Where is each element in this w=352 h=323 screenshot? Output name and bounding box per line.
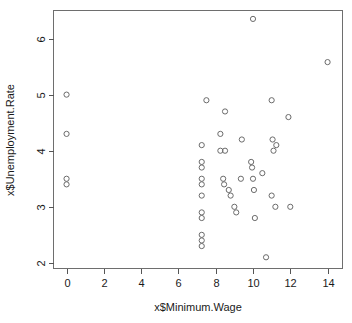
- data-points-layer: [64, 16, 330, 260]
- data-point: [228, 193, 233, 198]
- data-point: [250, 176, 255, 181]
- x-tick-label: 12: [284, 277, 296, 289]
- x-tick-label: 6: [175, 277, 181, 289]
- x-tick-label: 4: [138, 277, 144, 289]
- y-axis-title: x$Unemployment.Rate: [4, 84, 16, 196]
- data-point: [221, 176, 226, 181]
- data-point: [199, 243, 204, 248]
- data-point: [222, 182, 227, 187]
- plot-canvas: 02468101214 23456 x$Minimum.Wage x$Unemp…: [0, 0, 352, 323]
- y-tick-label: 6: [35, 36, 47, 42]
- data-point: [226, 187, 231, 192]
- data-point: [232, 204, 237, 209]
- y-axis-ticks: [49, 40, 54, 264]
- x-axis-title: x$Minimum.Wage: [154, 301, 242, 313]
- data-point: [218, 131, 223, 136]
- data-point: [325, 60, 330, 65]
- data-point: [249, 159, 254, 164]
- data-point: [64, 131, 69, 136]
- x-tick-label: 8: [213, 277, 219, 289]
- data-point: [199, 165, 204, 170]
- data-point: [252, 215, 257, 220]
- data-point: [199, 238, 204, 243]
- y-tick-label: 2: [35, 260, 47, 266]
- data-point: [199, 182, 204, 187]
- data-point: [199, 215, 204, 220]
- data-point: [239, 137, 244, 142]
- data-point: [269, 193, 274, 198]
- x-tick-label: 14: [322, 277, 334, 289]
- y-tick-label: 3: [35, 204, 47, 210]
- data-point: [234, 210, 239, 215]
- data-point: [199, 232, 204, 237]
- data-point: [260, 171, 265, 176]
- data-point: [271, 148, 276, 153]
- x-tick-label: 0: [64, 277, 70, 289]
- data-point: [199, 159, 204, 164]
- data-point: [263, 255, 268, 260]
- plot-frame: [54, 11, 343, 269]
- data-point: [250, 16, 255, 21]
- y-tick-label: 5: [35, 92, 47, 98]
- data-point: [273, 204, 278, 209]
- x-tick-label: 10: [247, 277, 259, 289]
- y-tick-label: 4: [35, 148, 47, 154]
- data-point: [288, 204, 293, 209]
- data-point: [274, 143, 279, 148]
- data-point: [251, 187, 256, 192]
- data-point: [238, 176, 243, 181]
- data-point: [64, 92, 69, 97]
- data-point: [204, 98, 209, 103]
- data-point: [269, 98, 274, 103]
- data-point: [199, 143, 204, 148]
- data-point: [199, 210, 204, 215]
- data-point: [64, 182, 69, 187]
- scatter-plot-figure: 02468101214 23456 x$Minimum.Wage x$Unemp…: [0, 0, 352, 323]
- y-axis-tick-labels: 23456: [35, 36, 47, 266]
- data-point: [199, 176, 204, 181]
- data-point: [286, 114, 291, 119]
- x-axis-ticks: [68, 269, 329, 274]
- data-point: [270, 137, 275, 142]
- data-point: [199, 193, 204, 198]
- x-tick-label: 2: [101, 277, 107, 289]
- data-point: [249, 165, 254, 170]
- data-point: [222, 109, 227, 114]
- data-point: [64, 176, 69, 181]
- x-axis-tick-labels: 02468101214: [64, 277, 334, 289]
